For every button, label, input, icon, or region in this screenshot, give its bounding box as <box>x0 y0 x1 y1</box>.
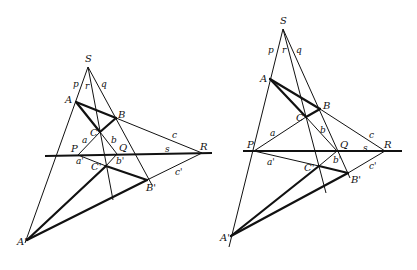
label-c-prime-left: c' <box>175 168 183 177</box>
line-c-right <box>320 109 385 151</box>
label-q-left: q <box>101 80 107 89</box>
label-A-left: A <box>65 95 72 105</box>
label-p-right: p <box>268 46 274 55</box>
label-b-prime-left: b' <box>116 157 124 166</box>
label-c-right: c <box>369 131 374 140</box>
label-b-right: b <box>320 126 326 135</box>
label-P-right: P <box>247 140 254 150</box>
label-Q-right: Q <box>340 140 348 150</box>
label-C-left: C <box>90 128 98 138</box>
label-s-left: s <box>165 145 170 154</box>
label-Q-left: Q <box>119 143 127 153</box>
label-b-prime-right: b' <box>333 156 341 165</box>
label-a-left: a <box>82 136 87 145</box>
label-C-prime-right: C' <box>304 163 314 173</box>
side-BC-prime-left <box>106 166 147 180</box>
label-R-right: R <box>384 140 392 150</box>
side-BC-prime-right <box>319 166 348 173</box>
side-AC-prime-right <box>231 166 319 236</box>
label-r-right: r <box>282 46 286 55</box>
right-figure <box>229 29 402 247</box>
label-A-prime-right: A' <box>220 233 230 243</box>
label-q-right: q <box>296 46 302 55</box>
side-AB-prime-right <box>231 173 348 236</box>
label-a-prime-right: a' <box>267 158 275 167</box>
label-B-left: B <box>118 110 125 120</box>
label-s-right: s <box>363 144 368 153</box>
label-B-prime-right: B' <box>351 175 361 185</box>
label-p-left: p <box>73 80 79 89</box>
label-r-left: r <box>85 82 89 91</box>
left-figure <box>25 67 212 243</box>
label-R-left: R <box>200 142 208 152</box>
label-C-prime-left: C' <box>91 162 101 172</box>
label-C-right: C <box>296 113 304 123</box>
label-a-prime-left: a' <box>76 157 84 166</box>
label-S-right: S <box>280 16 287 26</box>
label-c-left: c <box>172 131 177 140</box>
label-a-right: a <box>270 129 275 138</box>
line-c-left <box>116 118 202 153</box>
line-p-right <box>229 29 283 247</box>
side-AB-prime-left <box>27 180 147 240</box>
label-B-right: B <box>323 101 330 111</box>
label-P-left: P <box>71 144 78 154</box>
label-S-left: S <box>85 54 92 64</box>
diagram-canvas <box>0 0 417 270</box>
label-b-left: b <box>111 136 117 145</box>
label-A-right: A <box>260 74 267 84</box>
side-BC-left <box>100 118 116 132</box>
label-c-prime-right: c' <box>369 162 377 171</box>
label-A-prime-left: A' <box>17 237 27 247</box>
label-B-prime-left: B' <box>146 183 156 193</box>
side-BC-right <box>306 109 320 117</box>
line-c-prime-right <box>348 151 385 173</box>
